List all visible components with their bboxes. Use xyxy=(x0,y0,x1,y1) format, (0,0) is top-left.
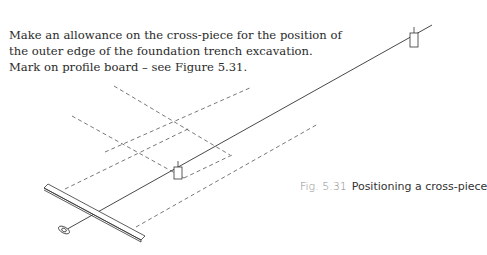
profile-board xyxy=(44,184,145,242)
ranging-line xyxy=(62,25,432,232)
cross-piece xyxy=(410,27,418,47)
figure-caption: Fig. 5.31Positioning a cross-piece xyxy=(300,180,487,193)
trench-outline-dashed xyxy=(65,86,318,227)
plumb-bob xyxy=(57,225,70,236)
peg xyxy=(174,161,182,179)
figure-number: Fig. 5.31 xyxy=(300,180,347,193)
figure-title: Positioning a cross-piece xyxy=(352,180,487,193)
